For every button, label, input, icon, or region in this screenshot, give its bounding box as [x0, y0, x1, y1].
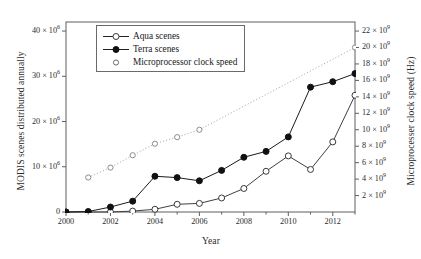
y-axis-right-tick-7: 16 × 109: [362, 75, 414, 84]
legend-marker-open-circle-icon: [101, 29, 131, 42]
data-point: [130, 153, 135, 158]
x-axis-tick-4: 2008: [224, 217, 264, 226]
y-axis-right-tick-10: 22 × 109: [362, 26, 414, 35]
y-axis-right-tick-5: 12 × 109: [362, 108, 414, 117]
x-axis-tick-5: 2010: [268, 217, 308, 226]
data-point: [152, 141, 157, 146]
legend-marker-small-open-circle-icon: [101, 55, 131, 68]
data-point: [219, 195, 225, 201]
y-axis-right-tick-1: 4 × 109: [362, 174, 414, 183]
y-axis-right-tick-0: 2 × 109: [362, 191, 414, 200]
data-point: [352, 92, 358, 98]
x-axis-tick-2: 2004: [135, 217, 175, 226]
data-point: [263, 168, 269, 174]
x-axis-tick-3: 2006: [179, 217, 219, 226]
data-point: [330, 79, 336, 85]
y-axis-right-tick-4: 10 × 109: [362, 125, 414, 134]
legend-label: Aqua scenes: [131, 31, 180, 41]
x-axis-title: Year: [66, 236, 356, 246]
y-axis-left-tick-2: 20 × 106: [8, 117, 60, 126]
y-axis-right-title: Microprocesser clock speed (Hz): [406, 26, 416, 216]
y-axis-left-tick-1: 10 × 106: [8, 162, 60, 171]
chart-legend: Aqua scenesTerra scenesMicroprocessor cl…: [96, 25, 245, 72]
legend-label: Terra scenes: [131, 44, 179, 54]
x-axis-tick-6: 2012: [313, 217, 353, 226]
data-point: [285, 134, 291, 140]
y-axis-right-tick-2: 6 × 109: [362, 158, 414, 167]
data-point: [263, 148, 269, 154]
data-point: [308, 84, 314, 90]
y-axis-left-tick-3: 30 × 106: [8, 71, 60, 80]
data-point: [108, 165, 113, 170]
data-point: [174, 175, 180, 181]
y-axis-right-tick-9: 20 × 109: [362, 42, 414, 51]
y-axis-left-tick-0: 0: [8, 207, 60, 216]
data-point: [196, 200, 202, 206]
series-line-terra-scenes: [66, 74, 355, 212]
data-point: [86, 175, 91, 180]
legend-item-2: Microprocessor clock speed: [101, 55, 237, 68]
data-point: [152, 173, 158, 179]
legend-label: Microprocessor clock speed: [131, 57, 237, 67]
legend-marker-filled-circle-icon: [101, 42, 131, 55]
data-point: [196, 178, 202, 184]
x-axis-tick-0: 2000: [46, 217, 86, 226]
data-point: [241, 185, 247, 191]
data-point: [330, 139, 336, 145]
data-point: [308, 166, 314, 172]
data-point: [174, 201, 180, 207]
data-point: [197, 127, 202, 132]
data-point: [352, 71, 358, 77]
data-point: [107, 204, 113, 210]
y-axis-right-tick-3: 8 × 109: [362, 141, 414, 150]
data-point: [130, 198, 136, 204]
data-point: [285, 153, 291, 159]
legend-item-1: Terra scenes: [101, 42, 237, 55]
data-point: [241, 154, 247, 160]
legend-item-0: Aqua scenes: [101, 29, 237, 42]
y-axis-right-tick-8: 18 × 109: [362, 59, 414, 68]
series-line-aqua-scenes: [66, 95, 355, 212]
chart-figure: MODIS scenes distributed annually Microp…: [0, 0, 421, 259]
x-axis-tick-1: 2002: [90, 217, 130, 226]
y-axis-right-tick-6: 14 × 109: [362, 92, 414, 101]
data-point: [152, 206, 158, 212]
data-point: [175, 135, 180, 140]
y-axis-left-tick-4: 40 × 106: [8, 26, 60, 35]
data-point: [219, 167, 225, 173]
